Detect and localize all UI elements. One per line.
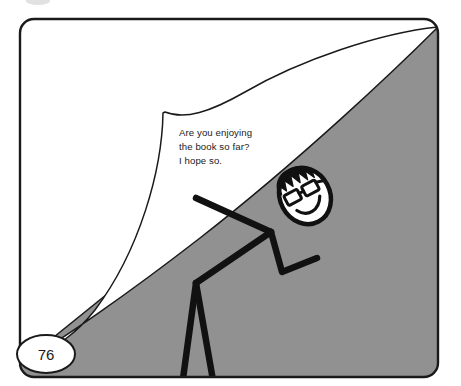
- page-number-label: 76: [38, 346, 55, 363]
- glasses-bridge-icon: [299, 191, 303, 193]
- speech-line-3: I hope so.: [179, 155, 222, 166]
- page-number-badge: 76: [17, 335, 75, 373]
- comic-panel: Are you enjoying the book so far? I hope…: [0, 0, 461, 386]
- speech-line-2: the book so far?: [179, 141, 249, 152]
- speech-line-1: Are you enjoying: [179, 127, 252, 138]
- comic-panel-canvas: Are you enjoying the book so far? I hope…: [0, 0, 461, 386]
- top-edge-smudge-artifact: [26, 0, 50, 5]
